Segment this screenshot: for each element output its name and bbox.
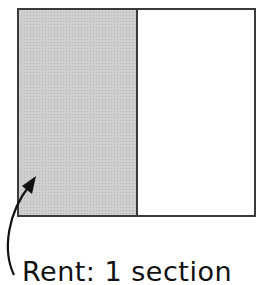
shaded-section	[18, 10, 137, 215]
unshaded-section	[137, 10, 255, 216]
rent-label: Rent: 1 section	[22, 256, 232, 285]
